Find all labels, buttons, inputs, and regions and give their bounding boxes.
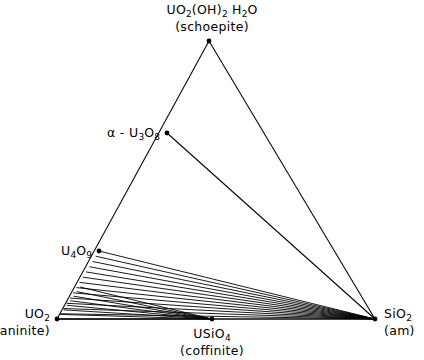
ternary-phase-diagram: UO2(OH)2 H2O (schoepite) α - U3O8 U4O9 U… — [0, 0, 424, 360]
vertex-label-uraninite: UO2 (uraninite) — [0, 306, 50, 339]
diagram-canvas — [0, 0, 424, 360]
point-marker — [210, 317, 215, 322]
coffinite-formula: USiO4 — [193, 326, 230, 341]
vertex-markers — [55, 39, 378, 322]
schoepite-formula: UO2(OH)2 H2O — [166, 2, 257, 17]
vertex-label-silica: SiO2 (am) — [384, 306, 415, 339]
point-marker — [207, 39, 212, 44]
triangle-edges — [57, 41, 375, 319]
alpha-u3o8-formula: α - U3O8 — [107, 125, 160, 140]
tie-line-segment — [167, 133, 375, 319]
coffinite-common-name: (coffinite) — [180, 343, 244, 358]
triangle-edge-segment — [57, 41, 209, 319]
uraninite-formula: UO2 — [25, 306, 50, 321]
schoepite-common-name: (schoepite) — [166, 19, 257, 34]
point-marker — [165, 131, 170, 136]
silica-common-name: (am) — [384, 323, 415, 338]
u4o9-formula: U4O9 — [61, 243, 92, 258]
point-marker — [373, 317, 378, 322]
uraninite-common-name: (uraninite) — [0, 323, 50, 338]
vertex-label-schoepite: UO2(OH)2 H2O (schoepite) — [166, 2, 257, 35]
tie-line-to-silica — [93, 261, 375, 319]
point-label-alpha-u3o8: α - U3O8 — [107, 125, 160, 142]
triangle-edge-segment — [209, 41, 375, 319]
point-label-coffinite: USiO4 (coffinite) — [180, 326, 244, 359]
point-label-u4o9: U4O9 — [61, 243, 92, 260]
silica-formula: SiO2 — [384, 306, 412, 321]
tie-lines — [167, 133, 375, 319]
point-marker — [97, 249, 102, 254]
point-marker — [55, 317, 60, 322]
